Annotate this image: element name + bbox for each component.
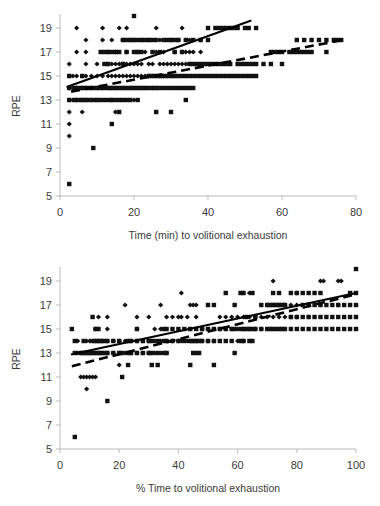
data-point-square (141, 351, 145, 355)
y-tick-label: 13 (40, 94, 52, 106)
data-point-square (306, 327, 310, 331)
data-point-diamond (198, 49, 203, 54)
series-square (70, 267, 359, 439)
data-point-diamond (134, 314, 139, 319)
data-point-diamond (67, 121, 72, 126)
data-point-diamond (109, 37, 114, 42)
data-point-square (336, 315, 340, 319)
data-point-diamond (223, 314, 228, 319)
data-point-square (169, 110, 173, 114)
data-point-diamond (185, 314, 190, 319)
data-point-square (354, 303, 358, 307)
data-point-diamond (339, 278, 344, 283)
data-point-diamond (150, 61, 155, 66)
data-point-square (150, 339, 154, 343)
data-point-square (67, 182, 71, 186)
data-point-square (70, 327, 74, 331)
data-point-square (154, 38, 158, 42)
data-point-square (330, 303, 334, 307)
data-point-square (354, 267, 358, 271)
data-point-diamond (154, 25, 159, 30)
data-point-diamond (94, 61, 99, 66)
data-point-diamond (146, 314, 151, 319)
data-point-diamond (105, 314, 110, 319)
x-tick-label: 100 (347, 459, 365, 471)
data-point-square (200, 339, 204, 343)
x-tick-label: 40 (172, 459, 184, 471)
data-point-square (164, 351, 168, 355)
data-point-square (289, 315, 293, 319)
data-point-diamond (117, 25, 122, 30)
data-point-square (261, 62, 265, 66)
data-point-square (176, 339, 180, 343)
chart-canvas-bottom: 5791113151719020406080100% Time to volit… (0, 253, 380, 506)
data-point-square (295, 291, 299, 295)
data-point-diamond (124, 25, 129, 30)
data-point-square (206, 339, 210, 343)
data-point-diamond (100, 37, 105, 42)
x-tick-label: 20 (128, 206, 140, 218)
data-point-square (154, 110, 158, 114)
data-point-square (324, 50, 328, 54)
data-point-square (306, 315, 310, 319)
data-point-square (206, 26, 210, 30)
data-point-square (155, 363, 159, 367)
data-point-square (250, 339, 254, 343)
data-point-square (280, 62, 284, 66)
data-point-square (241, 339, 245, 343)
y-tick-label: 17 (40, 299, 52, 311)
data-point-square (135, 351, 139, 355)
data-point-diamond (100, 25, 105, 30)
data-point-square (155, 339, 159, 343)
data-point-square (117, 339, 121, 343)
data-point-diamond (194, 314, 199, 319)
data-point-square (91, 146, 95, 150)
data-point-diamond (271, 314, 276, 319)
data-point-square (150, 363, 154, 367)
trendline-solid (72, 293, 356, 354)
data-point-diamond (179, 290, 184, 295)
data-point-square (90, 315, 94, 319)
y-tick-label: 9 (46, 142, 52, 154)
data-point-square (302, 38, 306, 42)
data-point-square (348, 327, 352, 331)
data-point-square (259, 327, 263, 331)
series-square (67, 14, 343, 186)
x-tick-label: 80 (291, 459, 303, 471)
data-point-square (342, 327, 346, 331)
data-point-diamond (139, 61, 144, 66)
chart-panel-bottom: 5791113151719020406080100% Time to volit… (0, 253, 380, 506)
data-point-square (295, 38, 299, 42)
data-point-diamond (80, 109, 85, 114)
data-point-square (342, 315, 346, 319)
data-point-diamond (105, 326, 110, 331)
data-point-square (135, 327, 139, 331)
data-point-square (182, 339, 186, 343)
data-point-square (117, 50, 121, 54)
x-axis-title: % Time to volitional exhaustion (136, 482, 280, 494)
data-point-square (324, 38, 328, 42)
y-axis-title: RPE (10, 348, 22, 370)
data-point-square (354, 315, 358, 319)
data-point-square (295, 327, 299, 331)
data-point-square (336, 327, 340, 331)
data-point-square (164, 327, 168, 331)
data-point-square (126, 363, 130, 367)
data-point-diamond (67, 61, 72, 66)
data-point-diamond (67, 133, 72, 138)
data-point-square (180, 50, 184, 54)
data-point-square (120, 375, 124, 379)
data-point-square (170, 327, 174, 331)
data-point-square (330, 327, 334, 331)
x-axis-title: Time (min) to volitional exhaustion (129, 229, 288, 241)
data-point-square (139, 50, 143, 54)
data-point-square (73, 435, 77, 439)
data-point-diamond (93, 374, 98, 379)
data-point-diamond (321, 278, 326, 283)
y-tick-label: 5 (46, 443, 52, 455)
data-point-square (224, 339, 228, 343)
data-point-square (105, 339, 109, 343)
data-point-square (188, 363, 192, 367)
data-point-square (309, 38, 313, 42)
y-tick-label: 5 (46, 190, 52, 202)
